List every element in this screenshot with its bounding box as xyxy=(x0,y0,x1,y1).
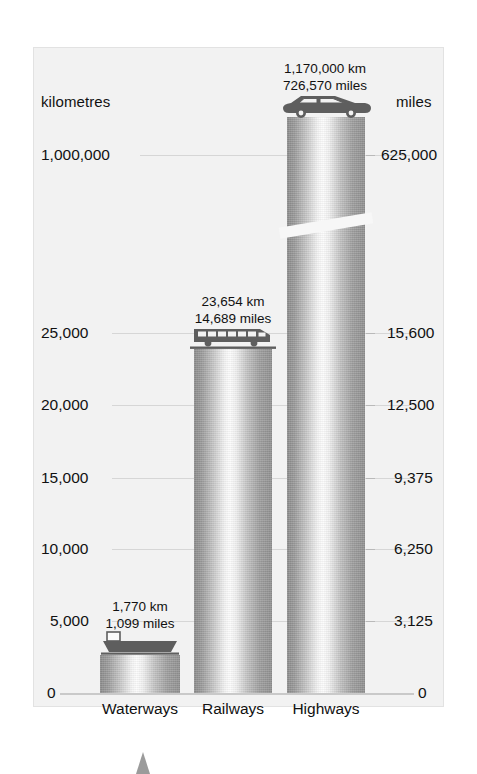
y-axis-right-caption: miles xyxy=(396,93,432,110)
y-tick-right-6250: 6,250 xyxy=(394,541,433,557)
category-label-highways: Highways xyxy=(276,700,376,718)
datalabel-highways-miles: 726,570 miles xyxy=(258,77,392,94)
barge-icon xyxy=(101,631,179,655)
y-tick-right-9375: 9,375 xyxy=(394,470,433,486)
y-tick-left-10000: 10,000 xyxy=(41,541,88,557)
y-tick-left-0: 0 xyxy=(47,685,56,701)
bar-waterways[interactable] xyxy=(100,655,180,693)
y-axis-left-caption: kilometres xyxy=(41,93,110,110)
car-icon xyxy=(281,93,373,119)
datalabel-railways-km: 23,654 km xyxy=(173,293,293,310)
datalabel-railways-miles: 14,689 miles xyxy=(173,310,293,327)
y-tick-left-1000000: 1,000,000 xyxy=(41,147,110,163)
category-label-railways: Railways xyxy=(183,700,283,718)
y-tick-right-0: 0 xyxy=(418,685,427,701)
datalabel-highways-km: 1,170,000 km xyxy=(258,60,392,77)
tickmark-right-6250 xyxy=(366,549,375,550)
y-tick-right-12500: 12,500 xyxy=(387,397,434,413)
up-arrow-marker xyxy=(136,752,150,774)
datalabel-waterways: 1,770 km 1,099 miles xyxy=(80,598,200,632)
tickmark-right-9375 xyxy=(366,478,375,479)
category-label-waterways: Waterways xyxy=(90,700,190,718)
tickmark-right-3125 xyxy=(366,621,375,622)
bar-railways[interactable] xyxy=(194,349,272,693)
tickmark-right-625000 xyxy=(366,155,375,156)
datalabel-highways: 1,170,000 km 726,570 miles xyxy=(258,60,392,94)
datalabel-waterways-km: 1,770 km xyxy=(80,598,200,615)
y-tick-right-625000: 625,000 xyxy=(381,147,437,163)
bus-icon xyxy=(190,326,276,350)
datalabel-waterways-miles: 1,099 miles xyxy=(80,615,200,632)
datalabel-railways: 23,654 km 14,689 miles xyxy=(173,293,293,327)
y-tick-left-15000: 15,000 xyxy=(41,470,88,486)
y-tick-left-20000: 20,000 xyxy=(41,397,88,413)
y-tick-left-25000: 25,000 xyxy=(41,325,88,341)
x-axis-baseline xyxy=(60,693,414,695)
tickmark-right-15600 xyxy=(366,333,375,334)
bar-highways[interactable] xyxy=(287,117,365,693)
tickmark-right-12500 xyxy=(366,405,375,406)
y-tick-right-3125: 3,125 xyxy=(394,613,433,629)
y-tick-right-15600: 15,600 xyxy=(387,325,434,341)
